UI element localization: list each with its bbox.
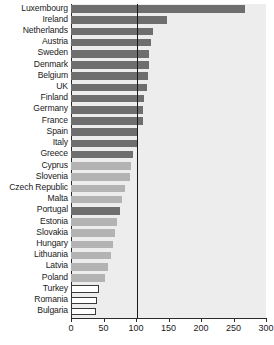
bar bbox=[71, 196, 122, 204]
x-tick-label: 50 bbox=[98, 323, 108, 333]
bar-category-label: Belgium bbox=[0, 70, 68, 81]
bar bbox=[71, 285, 99, 293]
x-tick-mark bbox=[136, 318, 137, 322]
bar bbox=[71, 5, 245, 13]
bar-category-label: Romania bbox=[0, 294, 68, 305]
bar-category-label: Bulgaria bbox=[0, 305, 68, 316]
bar bbox=[71, 263, 108, 271]
bar bbox=[71, 39, 151, 47]
bar bbox=[71, 16, 167, 24]
bar-category-label: Netherlands bbox=[0, 25, 68, 36]
bar bbox=[71, 84, 147, 92]
bar-category-label: Luxembourg bbox=[0, 3, 68, 14]
bar bbox=[71, 28, 153, 36]
bar-category-label: Sweden bbox=[0, 47, 68, 58]
x-tick-label: 0 bbox=[68, 323, 73, 333]
bar bbox=[71, 151, 133, 159]
x-tick-label: 150 bbox=[161, 323, 176, 333]
bar-category-label: Czech Republic bbox=[0, 182, 68, 193]
bar bbox=[71, 173, 130, 181]
bar bbox=[71, 252, 111, 260]
bar-category-label: Cyprus bbox=[0, 160, 68, 171]
bar bbox=[71, 140, 137, 148]
x-tick-mark bbox=[234, 318, 235, 322]
bar-category-label: Lithuania bbox=[0, 249, 68, 260]
bar bbox=[71, 297, 97, 305]
bar-category-label: France bbox=[0, 115, 68, 126]
bar-category-label: Germany bbox=[0, 103, 68, 114]
bar bbox=[71, 308, 96, 316]
bar bbox=[71, 274, 105, 282]
bar bbox=[71, 207, 120, 215]
bar-category-label: Turkey bbox=[0, 283, 68, 294]
bar-category-label: Finland bbox=[0, 92, 68, 103]
bar bbox=[71, 117, 143, 125]
x-tick-mark bbox=[169, 318, 170, 322]
bar bbox=[71, 218, 117, 226]
x-tick-label: 200 bbox=[193, 323, 208, 333]
bar bbox=[71, 162, 131, 170]
bar-chart: LuxembourgIrelandNetherlandsAustriaSwede… bbox=[0, 0, 274, 345]
reference-line-100 bbox=[137, 4, 138, 318]
x-tick-label: 250 bbox=[226, 323, 241, 333]
bar bbox=[71, 128, 137, 136]
bar-category-label: Estonia bbox=[0, 216, 68, 227]
x-tick-label: 100 bbox=[128, 323, 143, 333]
x-tick-mark bbox=[266, 318, 267, 322]
bar-category-label: Slovenia bbox=[0, 171, 68, 182]
x-tick-mark bbox=[201, 318, 202, 322]
bar-category-label: UK bbox=[0, 81, 68, 92]
bar-category-label: Portugal bbox=[0, 204, 68, 215]
bar-category-label: Latvia bbox=[0, 260, 68, 271]
bar-category-label: Malta bbox=[0, 193, 68, 204]
bar-category-label: Austria bbox=[0, 36, 68, 47]
bar-category-label: Denmark bbox=[0, 59, 68, 70]
x-tick-label: 300 bbox=[258, 323, 273, 333]
bar-category-label: Slovakia bbox=[0, 227, 68, 238]
bar-category-label: Italy bbox=[0, 137, 68, 148]
bar-category-label: Ireland bbox=[0, 14, 68, 25]
bar bbox=[71, 106, 143, 114]
bar-category-label: Poland bbox=[0, 272, 68, 283]
bar bbox=[71, 185, 125, 193]
bar-category-label: Hungary bbox=[0, 238, 68, 249]
bar bbox=[71, 229, 115, 237]
bar bbox=[71, 241, 113, 249]
x-tick-mark bbox=[104, 318, 105, 322]
x-tick-mark bbox=[71, 318, 72, 322]
bar bbox=[71, 95, 144, 103]
bar-category-label: Greece bbox=[0, 148, 68, 159]
x-axis-ticks: 050100150200250300 bbox=[0, 318, 274, 345]
bar-category-label: Spain bbox=[0, 126, 68, 137]
